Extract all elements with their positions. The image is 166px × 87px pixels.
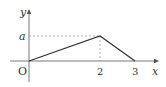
tick-label-2: 2	[97, 66, 103, 77]
x-axis-label: x	[152, 65, 159, 78]
tick-label-3: 3	[132, 66, 138, 77]
origin-label: O	[18, 65, 27, 78]
graph-diagram: y a O 2 3 x	[0, 0, 166, 87]
tick-label-a: a	[19, 30, 26, 43]
graph-line	[29, 36, 135, 61]
y-axis-label: y	[19, 6, 27, 19]
